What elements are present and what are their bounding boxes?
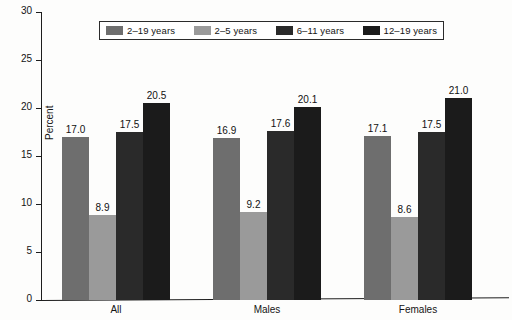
y-axis-tick: 15 — [36, 156, 41, 157]
bar-value-label: 8.9 — [96, 202, 110, 213]
y-axis-tick: 25 — [36, 60, 41, 61]
bar: 20.1 — [294, 107, 321, 300]
bar: 8.6 — [391, 217, 418, 300]
y-axis-line — [41, 12, 42, 301]
bar-value-label: 8.6 — [398, 204, 412, 215]
bar-value-label: 9.2 — [247, 199, 261, 210]
bar: 17.5 — [418, 132, 445, 300]
y-axis-tick-label: 25 — [21, 53, 32, 64]
x-axis-group-label: Males — [254, 304, 281, 315]
bar: 21.0 — [445, 98, 472, 300]
y-axis-tick: 20 — [36, 108, 41, 109]
bar-value-label: 17.5 — [422, 119, 441, 130]
bar-value-label: 21.0 — [449, 85, 468, 96]
x-axis-group-label: All — [110, 304, 121, 315]
y-axis-tick-label: 10 — [21, 197, 32, 208]
bar-value-label: 16.9 — [217, 125, 236, 136]
x-axis-group-label: Females — [399, 304, 437, 315]
y-axis-tick: 10 — [36, 204, 41, 205]
bar-chart: 2–19 years 2–5 years 6–11 years 12–19 ye… — [0, 0, 512, 320]
bar: 17.1 — [364, 136, 391, 300]
y-axis-tick-label: 20 — [21, 101, 32, 112]
bar: 20.5 — [143, 103, 170, 300]
bar-value-label: 17.1 — [368, 123, 387, 134]
bar: 17.0 — [62, 137, 89, 300]
y-axis-title: Percent — [44, 106, 55, 140]
plot-area: Percent 051015202530 17.08.917.520.516.9… — [41, 12, 509, 300]
bar: 8.9 — [89, 215, 116, 300]
bar: 17.5 — [116, 132, 143, 300]
y-axis-tick-label: 0 — [26, 293, 32, 304]
bar-value-label: 20.5 — [147, 90, 166, 101]
y-axis-tick-label: 15 — [21, 149, 32, 160]
bar-value-label: 20.1 — [298, 94, 317, 105]
bar-value-label: 17.6 — [271, 118, 290, 129]
bar: 9.2 — [240, 212, 267, 300]
bar: 17.6 — [267, 131, 294, 300]
y-axis-tick: 30 — [36, 12, 41, 13]
bar-value-label: 17.5 — [120, 119, 139, 130]
bar: 16.9 — [213, 138, 240, 300]
y-axis-tick-label: 30 — [21, 5, 32, 16]
y-axis-tick-label: 5 — [26, 245, 32, 256]
y-axis-tick: 5 — [36, 252, 41, 253]
bar-value-label: 17.0 — [66, 124, 85, 135]
y-axis-tick: 0 — [36, 300, 41, 301]
